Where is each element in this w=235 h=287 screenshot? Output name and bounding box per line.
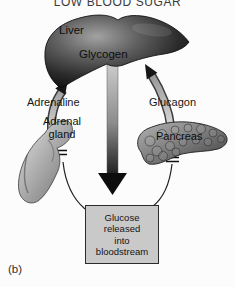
liver-label: Liver	[59, 24, 84, 36]
glucagon-label: Glucagon	[149, 96, 196, 108]
diagram-title: LOW BLOOD SUGAR	[0, 0, 235, 9]
panel-label: (b)	[8, 263, 22, 275]
glucose-box-line: Glucose	[105, 212, 140, 224]
adrenaline-label: Adrenaline	[27, 96, 80, 108]
glucose-box-line: into	[114, 235, 129, 247]
glucose-output-box: Glucose released into bloodstream	[85, 205, 159, 264]
glucose-box-line: released	[104, 223, 140, 235]
pancreas-shape	[138, 122, 227, 165]
adrenal-gland-label: Adrenal gland	[33, 115, 91, 141]
diagram-canvas: LOW BLOOD SUGAR Liver Glycogen Adrenalin…	[0, 0, 235, 287]
pancreas-leader-line	[152, 158, 179, 208]
glycogen-breakdown-arrow	[98, 58, 127, 195]
pancreas-label: Pancreas	[156, 130, 202, 142]
glycogen-label: Glycogen	[79, 48, 128, 60]
glucose-box-line: bloodstream	[96, 246, 148, 258]
